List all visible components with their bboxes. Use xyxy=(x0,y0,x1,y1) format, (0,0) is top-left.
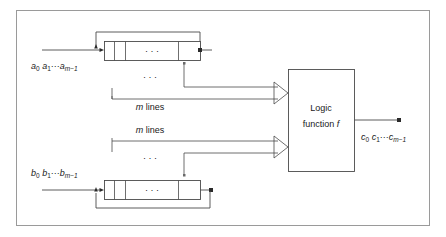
bus-b-tap-ellipsis: · · · xyxy=(143,153,157,163)
logic-function-line2: function f xyxy=(303,119,341,129)
register-b-cell-ellipsis: · · · xyxy=(145,185,159,195)
diagram-canvas: · · · a0 a1···am−1 · · · m lines xyxy=(0,0,446,237)
logic-function-line1: Logic xyxy=(310,103,332,113)
bus-b-label: m lines xyxy=(136,125,165,135)
figure-frame xyxy=(17,11,430,226)
bus-a-tap-ellipsis: · · · xyxy=(143,72,157,82)
block-diagram-figure: · · · a0 a1···am−1 · · · m lines xyxy=(0,0,446,237)
logic-function-block: Logic function f xyxy=(289,70,355,172)
bus-a-label: m lines xyxy=(136,102,165,112)
register-a-output-node xyxy=(198,48,202,52)
output-terminal-node xyxy=(397,118,401,122)
bus-b-tap-node xyxy=(183,174,186,177)
register-a-cell-ellipsis: · · · xyxy=(145,46,159,56)
